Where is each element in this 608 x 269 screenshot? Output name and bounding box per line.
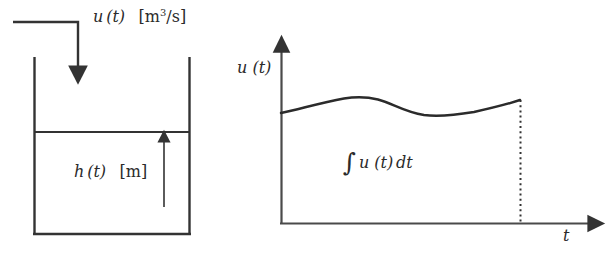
figure-vector-layer	[0, 0, 608, 269]
inflow-rate-label: u(t)[m3/s]	[93, 8, 186, 25]
inflow-rate-curve	[281, 97, 520, 116]
integral-area-annotation: ∫u (t)dt	[343, 155, 413, 171]
inflow-rate-plot-group	[280, 50, 590, 224]
inflow-units-close: /s]	[166, 7, 186, 26]
figure-canvas: u(t)[m3/s] h(t)[m] u (t) t ∫u (t)dt	[0, 0, 608, 269]
height-units: [m]	[120, 162, 148, 181]
water-tank-group	[13, 22, 191, 235]
plot-x-axis-label: t	[563, 228, 569, 244]
integral-sign-icon: ∫	[343, 148, 356, 177]
inflow-symbol: u	[93, 7, 103, 26]
integral-differential: dt	[396, 153, 413, 172]
plot-y-axis-label: u (t)	[237, 60, 271, 76]
water-height-label: h(t)[m]	[74, 164, 147, 180]
inflow-pipe-path	[13, 22, 78, 68]
integral-integrand: u (t)	[359, 153, 393, 172]
inflow-argument: (t)	[106, 7, 125, 26]
inflow-units-open: [m	[139, 7, 160, 26]
height-argument: (t)	[87, 162, 106, 181]
height-symbol: h	[74, 162, 84, 181]
